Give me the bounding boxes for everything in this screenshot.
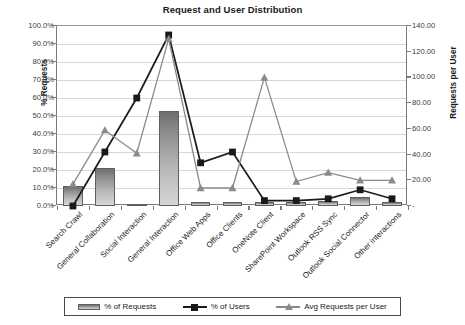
square-marker-icon (357, 186, 364, 193)
x-tickmark (89, 206, 90, 210)
x-tickmark (57, 206, 58, 210)
legend-item-users: % of Users (183, 302, 250, 311)
y2-tick-label: 140.00 (412, 21, 465, 30)
square-marker-icon (70, 203, 77, 210)
x-tickmark (121, 206, 122, 210)
x-tickmark (312, 206, 313, 210)
square-marker-icon (261, 197, 268, 204)
y-tick-label: 50.0% (0, 111, 54, 120)
y2-tick-label: 40.00 (412, 149, 465, 158)
legend-label: % of Requests (104, 302, 156, 311)
y-tick-label: 100.0% (0, 21, 54, 30)
triangle-marker-icon (324, 169, 332, 176)
y2-tick-label: 100.00 (412, 72, 465, 81)
y-tick-label: 70.0% (0, 75, 54, 84)
y2-tick-label: 80.00 (412, 98, 465, 107)
legend-item-requests: % of Requests (78, 302, 156, 311)
plot-area (56, 25, 407, 205)
x-tickmark (185, 206, 186, 210)
y-tick-label: 0.0% (0, 201, 54, 210)
y-tick-label: 40.0% (0, 129, 54, 138)
y2-tick-label: - (412, 201, 465, 210)
y-tick-label: 90.0% (0, 39, 54, 48)
x-tickmark (408, 206, 409, 210)
chart-legend: % of Requests % of Users Avg Requests pe… (64, 297, 401, 316)
y-tick-label: 30.0% (0, 147, 54, 156)
square-marker-icon (229, 149, 236, 156)
triangle-marker-icon (69, 180, 77, 187)
y-tick-label: 60.0% (0, 93, 54, 102)
series-line (73, 39, 392, 188)
y-tickmark (52, 205, 56, 206)
y-tick-label: 20.0% (0, 165, 54, 174)
y-tick-label: 80.0% (0, 57, 54, 66)
y2-tick-label: 120.00 (412, 46, 465, 55)
square-marker-icon (325, 195, 332, 202)
x-tickmark (344, 206, 345, 210)
y-tick-label: 10.0% (0, 183, 54, 192)
square-marker-icon (389, 195, 396, 202)
legend-label: Avg Requests per User (304, 302, 387, 311)
legend-label: % of Users (211, 302, 250, 311)
chart-container: Request and User Distribution % Requests… (0, 0, 465, 325)
square-marker-icon (293, 197, 300, 204)
triangle-marker-icon (101, 126, 109, 133)
legend-item-avg-requests: Avg Requests per User (276, 302, 387, 311)
triangle-marker-icon (133, 149, 141, 156)
square-marker-icon (133, 95, 140, 102)
y2-tick-label: 20.00 (412, 175, 465, 184)
square-marker-icon (197, 159, 204, 166)
line-triangle-swatch-icon (276, 302, 300, 311)
x-tickmark (248, 206, 249, 210)
line-series-layer (57, 26, 408, 206)
square-marker-icon (101, 149, 108, 156)
series-line (73, 35, 392, 206)
triangle-marker-icon (260, 73, 268, 80)
x-tickmark (217, 206, 218, 210)
y2-tick-label: 60.00 (412, 123, 465, 132)
x-tickmark (280, 206, 281, 210)
bar-swatch-icon (78, 304, 100, 310)
x-tickmark (153, 206, 154, 210)
line-square-swatch-icon (183, 302, 207, 311)
chart-title: Request and User Distribution (0, 4, 465, 15)
x-tickmark (376, 206, 377, 210)
y-axis-right-title: Requests per User (449, 8, 458, 158)
